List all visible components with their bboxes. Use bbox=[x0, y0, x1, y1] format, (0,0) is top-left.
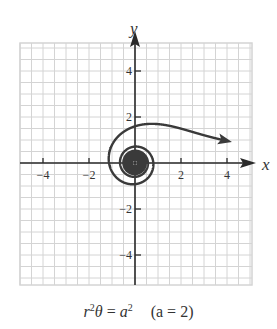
caption-parameter: (a = 2) bbox=[151, 303, 194, 320]
caption-a-exponent: 2 bbox=[128, 302, 133, 313]
svg-text:4: 4 bbox=[126, 64, 132, 78]
polar-plot: −4−224−4−224 x y bbox=[0, 0, 277, 300]
caption-equals: = bbox=[103, 303, 120, 320]
svg-text:2: 2 bbox=[178, 168, 184, 182]
svg-text:−4: −4 bbox=[37, 168, 50, 182]
caption-theta: θ bbox=[95, 303, 103, 320]
grid bbox=[20, 43, 252, 285]
y-axis-label: y bbox=[128, 19, 138, 38]
svg-text:−4: −4 bbox=[119, 248, 132, 262]
lituus-curve bbox=[109, 124, 224, 184]
equation-caption: r2θ = a2(a = 2) bbox=[0, 302, 277, 321]
svg-text:−2: −2 bbox=[83, 168, 96, 182]
svg-text:4: 4 bbox=[224, 168, 230, 182]
svg-text:−2: −2 bbox=[119, 202, 132, 216]
x-axis-label: x bbox=[261, 155, 270, 174]
svg-text:2: 2 bbox=[126, 110, 132, 124]
caption-a: a bbox=[120, 303, 128, 320]
